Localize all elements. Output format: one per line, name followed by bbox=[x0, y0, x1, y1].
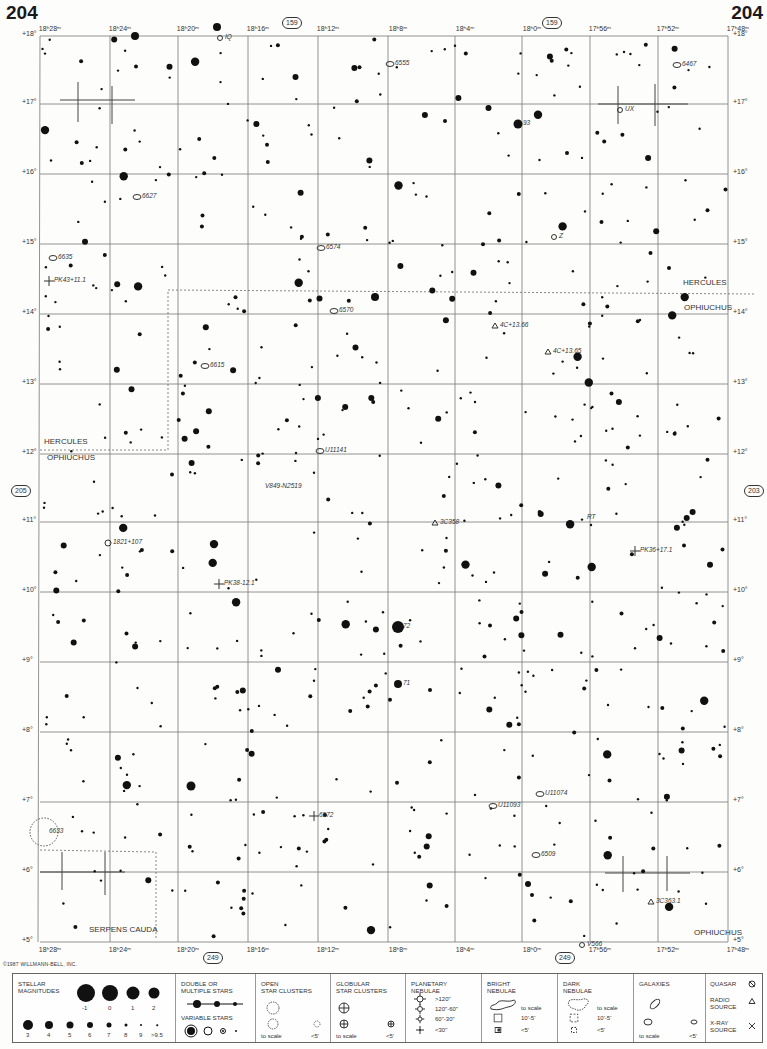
ra-label-top: 17ʰ56ᵐ bbox=[589, 25, 611, 32]
adjacent-page-bottom-2[interactable]: 249 bbox=[555, 952, 575, 964]
object-label: U11074 bbox=[545, 789, 567, 796]
object-label: PK43+11.1 bbox=[54, 276, 86, 283]
object-symbol-variable bbox=[552, 235, 557, 240]
ra-label-bottom: 17ʰ56ᵐ bbox=[589, 946, 611, 953]
ra-label-bottom: 18ʰ12ᵐ bbox=[317, 946, 339, 953]
object-label: UX bbox=[625, 105, 634, 112]
object-symbol-galaxy bbox=[316, 449, 324, 454]
legend-open-clusters: OPEN STAR CLUSTERS to scale <5' bbox=[255, 974, 331, 1042]
dec-label-right: +17° bbox=[733, 98, 748, 105]
dec-label-right: +15° bbox=[733, 238, 748, 245]
object-label: PK38-12.1 bbox=[224, 579, 255, 586]
dec-label-left: +7° bbox=[22, 796, 33, 803]
object-label: RT bbox=[587, 513, 596, 520]
object-label: 1821+107 bbox=[113, 538, 142, 545]
dec-label-right: +8° bbox=[733, 726, 744, 733]
object-label: 4C+13.65 bbox=[553, 347, 581, 354]
object-symbol-planetary bbox=[214, 579, 224, 589]
dec-label-right: +5° bbox=[733, 936, 744, 943]
ra-label-top: 18ʰ0ᵐ bbox=[523, 25, 541, 32]
object-label: U11141 bbox=[325, 446, 347, 453]
object-label: 6574 bbox=[326, 243, 340, 250]
dec-label-right: +18° bbox=[733, 30, 748, 37]
object-symbol-planetary bbox=[309, 811, 319, 821]
ra-label-bottom: 18ʰ20ᵐ bbox=[177, 946, 199, 953]
ra-label-bottom: 18ʰ0ᵐ bbox=[523, 946, 541, 953]
ra-label-top: 18ʰ12ᵐ bbox=[317, 25, 339, 32]
object-label: 6627 bbox=[142, 192, 156, 199]
object-label: 93 bbox=[523, 119, 530, 126]
constellation-hercules-left: HERCULES bbox=[44, 437, 88, 446]
object-symbol-galaxy bbox=[673, 63, 681, 68]
adjacent-page-left[interactable]: 205 bbox=[11, 485, 31, 497]
ra-label-top: 18ʰ20ᵐ bbox=[177, 25, 199, 32]
object-symbol-galaxy bbox=[201, 364, 209, 369]
dec-label-left: +18° bbox=[22, 30, 37, 37]
object-symbol-galaxy bbox=[386, 62, 394, 67]
legend-galaxies: GALAXIES to scale <5' bbox=[633, 974, 706, 1042]
object-label: 72 bbox=[403, 622, 410, 629]
legend-stellar-magnitudes: STELLAR MAGNITUDES -1 0 1 2 3 4 5 6 7 8 … bbox=[13, 974, 176, 1042]
object-symbol-planetary bbox=[44, 276, 54, 286]
adjacent-page-top[interactable]: 159 bbox=[282, 17, 302, 29]
object-symbol-galaxy bbox=[489, 804, 497, 809]
dec-label-right: +14° bbox=[733, 308, 748, 315]
object-label: 3C363.1 bbox=[656, 897, 681, 904]
ra-label-top: 18ʰ16ᵐ bbox=[247, 25, 269, 32]
dec-label-left: +13° bbox=[22, 378, 37, 385]
object-symbol-variable bbox=[580, 943, 585, 948]
constellation-serpens-cauda: SERPENS CAUDA bbox=[89, 925, 157, 934]
object-symbol-radio bbox=[492, 323, 498, 328]
star-chart bbox=[0, 0, 767, 960]
legend-planetary-nebulae: PLANETARY NEBULAE >120" 120"-60" 60"-30"… bbox=[405, 974, 482, 1042]
legend-double-variable: DOUBLE OR MULTIPLE STARS VARIABLE STARS bbox=[175, 974, 256, 1042]
dec-label-left: +16° bbox=[22, 168, 37, 175]
dec-label-right: +6° bbox=[733, 866, 744, 873]
object-label: 3C358 bbox=[440, 518, 459, 525]
object-label: U11093 bbox=[498, 801, 520, 808]
adjacent-page-top-2[interactable]: 159 bbox=[542, 17, 562, 29]
dec-label-left: +17° bbox=[22, 98, 37, 105]
ra-label-bottom: 17ʰ48ᵐ bbox=[727, 946, 749, 953]
legend-dark-nebulae: DARK NEBULAE to scale 10'-5' <5' bbox=[557, 974, 634, 1042]
legend-globular-clusters: GLOBULAR STAR CLUSTERS to scale <5' bbox=[330, 974, 406, 1042]
ra-label-bottom: 18ʰ8ᵐ bbox=[389, 946, 407, 953]
object-label: 6509 bbox=[541, 850, 555, 857]
object-label: IQ bbox=[225, 33, 232, 40]
adjacent-page-right[interactable]: 203 bbox=[744, 485, 764, 497]
object-label: 6635 bbox=[58, 253, 72, 260]
ra-label-top: 18ʰ24ᵐ bbox=[109, 25, 131, 32]
ra-label-top: 18ʰ8ᵐ bbox=[389, 25, 407, 32]
legend-bright-nebulae: BRIGHT NEBULAE to scale 10'-5' <5' bbox=[481, 974, 558, 1042]
dec-label-right: +12° bbox=[733, 448, 748, 455]
adjacent-page-bottom[interactable]: 249 bbox=[203, 952, 223, 964]
dec-label-right: +9° bbox=[733, 656, 744, 663]
object-symbol-radio bbox=[432, 520, 438, 525]
object-label: 6467 bbox=[682, 60, 696, 67]
object-symbol-galaxy bbox=[133, 195, 141, 200]
object-symbol-galaxy bbox=[330, 309, 338, 314]
dec-label-left: +5° bbox=[22, 936, 33, 943]
dec-label-left: +10° bbox=[22, 586, 37, 593]
dec-label-right: +11° bbox=[733, 516, 747, 523]
dec-label-right: +7° bbox=[733, 796, 744, 803]
object-label: 6633 bbox=[49, 827, 63, 834]
object-label: 6570 bbox=[339, 306, 353, 313]
dec-label-right: +16° bbox=[733, 168, 748, 175]
object-label: V849-N2519 bbox=[265, 482, 302, 489]
object-symbol-galaxy bbox=[536, 792, 544, 797]
dec-label-right: +10° bbox=[733, 586, 748, 593]
ra-label-bottom: 18ʰ28ᵐ bbox=[39, 946, 61, 953]
legend-other-sources: QUASAR RADIO SOURCE X-RAY SOURCE bbox=[705, 974, 762, 1042]
object-label: 4C+13.66 bbox=[500, 321, 528, 328]
object-symbol-radio bbox=[648, 899, 654, 904]
ra-label-bottom: 17ʰ52ᵐ bbox=[657, 946, 679, 953]
legend: STELLAR MAGNITUDES -1 0 1 2 3 4 5 6 7 8 … bbox=[12, 973, 763, 1043]
constellation-ophiuchus-left: OPHIUCHUS bbox=[47, 453, 95, 462]
ra-label-bottom: 18ʰ24ᵐ bbox=[109, 946, 131, 953]
dec-label-left: +6° bbox=[22, 866, 33, 873]
object-label: V566 bbox=[587, 940, 602, 947]
dec-label-left: +12° bbox=[22, 448, 37, 455]
object-label: 6572 bbox=[319, 811, 333, 818]
object-label: 71 bbox=[403, 679, 410, 686]
